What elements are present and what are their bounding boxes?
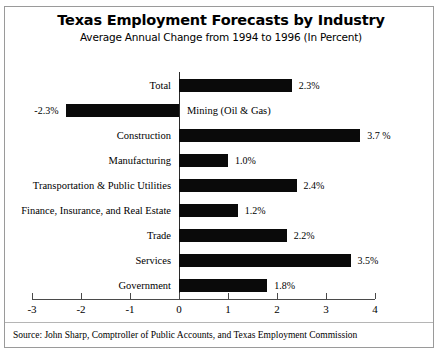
value-label: 2.3% [299, 80, 320, 91]
bar-transportation-public-utilities [179, 179, 297, 192]
bar-services [179, 254, 351, 267]
value-label: 1.2% [245, 205, 266, 216]
x-tick-label: 4 [363, 303, 387, 315]
value-label: 1.0% [235, 155, 256, 166]
x-tick-label: 0 [167, 303, 191, 315]
source-divider [5, 322, 433, 323]
category-label: Total [150, 79, 171, 92]
x-tick [326, 293, 327, 299]
bar-finance-insurance-and-real-estate [179, 204, 238, 217]
bar-government [179, 279, 267, 292]
x-tick-label: 1 [216, 303, 240, 315]
bar-manufacturing [179, 154, 228, 167]
value-label: 2.2% [294, 230, 315, 241]
bar-mining-oil-gas [66, 104, 179, 117]
category-label: Construction [117, 129, 171, 142]
x-tick-label: 3 [314, 303, 338, 315]
x-tick [32, 293, 33, 299]
value-label: 3.7 % [367, 130, 390, 141]
category-label: Trade [147, 229, 171, 242]
value-label: 2.4% [304, 180, 325, 191]
value-label: 1.8% [274, 280, 295, 291]
bar-total [179, 79, 292, 92]
x-tick [179, 293, 180, 299]
x-tick-label: -2 [69, 303, 93, 315]
x-tick-label: 2 [265, 303, 289, 315]
source-note: Source: John Sharp, Comptroller of Publi… [13, 330, 357, 340]
plot-area: Total2.3%Mining (Oil & Gas)-2.3%Construc… [0, 0, 442, 355]
x-tick-label: -3 [20, 303, 44, 315]
x-tick-label: -1 [118, 303, 142, 315]
x-axis-line [32, 299, 375, 300]
category-label: Services [135, 254, 171, 267]
x-tick [277, 293, 278, 299]
x-tick [375, 293, 376, 299]
chart-figure: Texas Employment Forecasts by Industry A… [0, 0, 442, 355]
category-label: Manufacturing [109, 154, 171, 167]
value-label: -2.3% [34, 105, 58, 116]
x-tick [130, 293, 131, 299]
category-label: Mining (Oil & Gas) [187, 104, 271, 117]
bar-construction [179, 129, 360, 142]
category-label: Government [119, 279, 172, 292]
value-label: 3.5% [358, 255, 379, 266]
bar-trade [179, 229, 287, 242]
x-tick [81, 293, 82, 299]
category-label: Transportation & Public Utilities [33, 179, 171, 192]
x-tick [228, 293, 229, 299]
category-label: Finance, Insurance, and Real Estate [21, 204, 171, 217]
